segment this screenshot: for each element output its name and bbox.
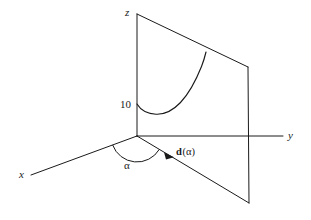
vector-symbol: d [176, 146, 182, 157]
direction-vector-label: d (α) [176, 146, 195, 158]
height-tick-label: 10 [120, 98, 132, 110]
angle-label: α [124, 159, 130, 171]
x-axis-line [31, 136, 137, 175]
surface-top-edge [137, 14, 248, 67]
geometry-diagram: z y x 10 α d (α) [0, 0, 311, 220]
angle-arc [113, 145, 160, 162]
direction-vector-arrowhead [164, 152, 174, 159]
surface-right-edge [248, 67, 249, 203]
vector-argument: (α) [183, 146, 196, 158]
x-axis-label: x [18, 168, 24, 180]
z-axis-label: z [124, 6, 130, 18]
y-axis-label: y [287, 129, 293, 141]
distance-curve [137, 52, 206, 114]
figure-container: z y x 10 α d (α) [0, 0, 311, 220]
